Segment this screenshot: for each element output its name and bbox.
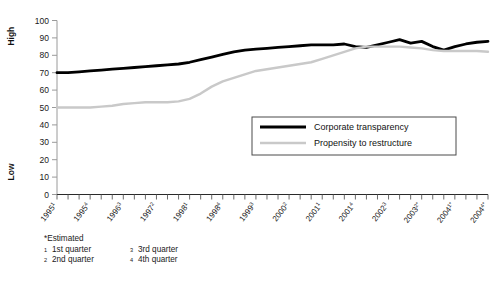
x-axis-tick-label: 19963: [105, 201, 125, 223]
svg-text:20032*: 20032*: [402, 200, 424, 225]
x-axis-tick-label: 19972: [138, 201, 158, 223]
x-axis-tick-label: 20023: [370, 201, 390, 223]
svg-text:19981: 19981: [171, 201, 191, 223]
y-axis-tick-label: 0: [44, 190, 49, 200]
svg-text:20023: 20023: [370, 201, 390, 223]
svg-text:19993: 19993: [237, 201, 257, 223]
svg-text:20002: 20002: [270, 201, 290, 223]
y-axis-tick-label: 90: [40, 33, 50, 43]
x-axis-tick-label: 20041*: [435, 200, 457, 225]
y-axis-tick-label: 30: [40, 137, 50, 147]
x-axis-tick-label: 19993: [237, 201, 257, 223]
x-axis-tick-label: 19951: [38, 201, 58, 223]
footnote-mark-3: 3: [130, 245, 138, 256]
legend-label-1: Corporate transparency: [314, 122, 409, 132]
y-axis-tick-label: 60: [40, 85, 50, 95]
svg-text:19972: 19972: [138, 201, 158, 223]
svg-text:20041*: 20041*: [435, 200, 457, 225]
footnote-row-2: 2 2nd quarter 4 4th quarter: [44, 255, 216, 266]
svg-text:20044*: 20044*: [468, 200, 490, 225]
footnote-estimated: *Estimated: [44, 234, 216, 245]
footnote-item-2: 2 2nd quarter: [44, 255, 130, 266]
svg-text:19984: 19984: [204, 201, 224, 223]
svg-text:20011: 20011: [303, 201, 323, 223]
x-axis-tick-label: 20044*: [468, 200, 490, 225]
footnote-text-2: 2nd quarter: [52, 255, 94, 266]
footnote-text-1: 1st quarter: [52, 245, 91, 256]
chart-container: 0102030405060708090100 19951199541996319…: [0, 0, 496, 289]
footnote-row-1: 1 1st quarter 3 3rd quarter: [44, 245, 216, 256]
footnote-mark-2: 2: [44, 255, 52, 266]
legend-label-2: Propensity to restructure: [314, 138, 412, 148]
footnote-text-3: 3rd quarter: [138, 245, 178, 256]
footnote-item-1: 1 1st quarter: [44, 245, 130, 256]
y-axis-tick-label: 50: [40, 103, 50, 113]
footnote-item-3: 3 3rd quarter: [130, 245, 216, 256]
footnote-block: *Estimated 1 1st quarter 3 3rd quarter 2…: [44, 234, 216, 266]
legend: Corporate transparencyPropensity to rest…: [252, 117, 456, 155]
axis-low-label: Low: [6, 163, 16, 180]
x-axis-tick-label: 20032*: [402, 200, 424, 225]
footnote-estimated-text: *Estimated: [44, 234, 84, 243]
x-axis-tick-label: 19981: [171, 201, 191, 223]
x-axis-tick-label: 20011: [303, 201, 323, 223]
x-axis-tick-label: 19984: [204, 201, 224, 223]
footnote-text-4: 4th quarter: [138, 255, 178, 266]
x-axis: 1995119954199631997219981199841999320002…: [38, 195, 490, 225]
x-axis-tick-label: 19954: [71, 201, 91, 223]
axis-high-label: High: [6, 27, 16, 46]
footnote-mark-4: 4: [130, 255, 138, 266]
x-axis-tick-label: 20002: [270, 201, 290, 223]
series-lines: [57, 40, 488, 108]
series-line-2: [57, 47, 488, 108]
svg-text:19954: 19954: [71, 201, 91, 223]
y-axis-tick-label: 20: [40, 155, 50, 165]
y-axis-tick-label: 10: [40, 172, 50, 182]
svg-text:20014: 20014: [337, 201, 357, 223]
footnote-mark-1: 1: [44, 245, 52, 256]
y-axis: 0102030405060708090100: [35, 16, 57, 200]
y-axis-tick-label: 100: [35, 16, 49, 26]
footnote-item-4: 4 4th quarter: [130, 255, 216, 266]
y-axis-tick-label: 40: [40, 120, 50, 130]
svg-text:19951: 19951: [38, 201, 58, 223]
x-axis-tick-label: 20014: [337, 201, 357, 223]
svg-text:19963: 19963: [105, 201, 125, 223]
axis-scale-labels: HighLow: [6, 27, 16, 181]
y-axis-tick-label: 80: [40, 50, 50, 60]
y-axis-tick-label: 70: [40, 68, 50, 78]
